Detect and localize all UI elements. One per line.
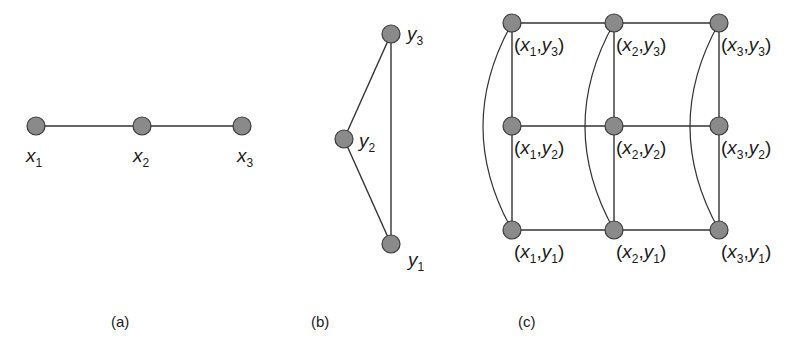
caption-b: (b) xyxy=(311,314,329,329)
caption-a: (a) xyxy=(111,314,129,329)
node-label-y2: y2 xyxy=(359,131,375,154)
graph-canvas xyxy=(0,0,803,354)
node-y2 xyxy=(335,130,353,148)
node-label-x3y3: (x3,y3) xyxy=(721,35,771,58)
node-x3y2 xyxy=(710,117,728,135)
node-y1 xyxy=(382,235,400,253)
node-label-x3: x3 xyxy=(237,146,253,169)
panel-a-graph xyxy=(27,117,251,135)
node-label-y3: y3 xyxy=(407,24,423,47)
node-x2y3 xyxy=(605,14,623,32)
node-x3y1 xyxy=(710,221,728,239)
node-label-x2y1: (x2,y1) xyxy=(616,242,666,265)
node-x1 xyxy=(27,117,45,135)
node-x3 xyxy=(233,117,251,135)
node-label-x1y3: (x1,y3) xyxy=(514,35,564,58)
node-x3y3 xyxy=(710,14,728,32)
node-label-x1y1: (x1,y1) xyxy=(514,242,564,265)
node-label-x3y2: (x3,y2) xyxy=(721,138,771,161)
node-x2y1 xyxy=(605,221,623,239)
node-label-x2y3: (x2,y3) xyxy=(616,35,666,58)
node-label-x3y1: (x3,y1) xyxy=(721,242,771,265)
edge-y3-y2 xyxy=(344,34,391,139)
node-x1y1 xyxy=(503,221,521,239)
node-x2y2 xyxy=(605,117,623,135)
node-label-x1y2: (x1,y2) xyxy=(514,138,564,161)
node-label-x2: x2 xyxy=(133,146,149,169)
node-x1y2 xyxy=(503,117,521,135)
node-x2 xyxy=(133,117,151,135)
node-y3 xyxy=(382,25,400,43)
node-label-x1: x1 xyxy=(26,146,42,169)
edge-y2-y1 xyxy=(344,139,391,244)
node-label-y1: y1 xyxy=(408,250,424,273)
caption-c: (c) xyxy=(518,314,536,329)
node-x1y3 xyxy=(503,14,521,32)
node-label-x2y2: (x2,y2) xyxy=(616,138,666,161)
